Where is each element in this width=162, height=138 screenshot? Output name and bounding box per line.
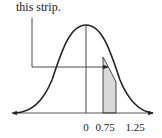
caption-text: this strip.	[16, 0, 61, 14]
tick-label-0.75: 0.75	[95, 121, 115, 133]
shaded-strip	[103, 57, 116, 113]
pointer-arrow	[32, 18, 108, 67]
bell-curve	[15, 25, 153, 113]
tick-label-0: 0	[83, 121, 89, 133]
tick-label-1.25: 1.25	[125, 121, 145, 133]
normal-curve-diagram: this strip. 0 0.75 1.25	[0, 0, 162, 138]
